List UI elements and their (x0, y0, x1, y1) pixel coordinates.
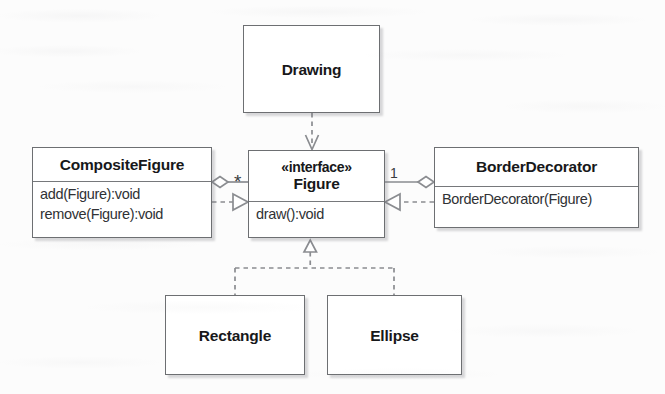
edge-decorator-realizes-figure (385, 194, 434, 210)
multiplicity-one: 1 (390, 166, 398, 180)
edge-composite-aggregates-figure (212, 177, 248, 188)
class-name-composite-figure: CompositeFigure (57, 156, 187, 173)
members-composite-figure: add(Figure):void remove(Figure):void (33, 182, 211, 224)
members-figure: draw():void (249, 202, 384, 225)
stereotype-interface: «interface» (281, 160, 352, 175)
edge-drawing-uses-figure (306, 113, 319, 150)
class-box-composite-figure[interactable]: CompositeFigure add(Figure):void remove(… (32, 147, 212, 238)
class-box-ellipse[interactable]: Ellipse (327, 295, 462, 375)
member-remove: remove(Figure):void (40, 205, 211, 225)
class-box-border-decorator[interactable]: BorderDecorator BorderDecorator(Figure) (434, 147, 639, 228)
edge-composite-realizes-figure (212, 194, 248, 210)
class-box-rectangle[interactable]: Rectangle (165, 295, 305, 375)
class-name-border-decorator: BorderDecorator (473, 158, 600, 175)
class-box-drawing[interactable]: Drawing (243, 25, 380, 113)
class-name-ellipse: Ellipse (367, 327, 422, 344)
member-border-decorator-ctor: BorderDecorator(Figure) (442, 190, 638, 210)
class-name-drawing: Drawing (279, 61, 345, 78)
members-border-decorator: BorderDecorator(Figure) (435, 187, 638, 210)
class-box-figure[interactable]: «interface» Figure draw():void (248, 150, 385, 238)
class-name-rectangle: Rectangle (196, 327, 274, 344)
class-name-figure: Figure (290, 175, 342, 192)
member-add: add(Figure):void (40, 185, 211, 205)
member-draw: draw():void (256, 205, 384, 225)
uml-class-diagram: Drawing CompositeFigure add(Figure):void… (0, 0, 665, 394)
multiplicity-star: * (234, 175, 241, 188)
edge-subclasses-realize-figure (235, 240, 394, 295)
